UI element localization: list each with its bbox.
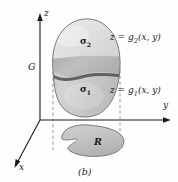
equation-lower-surface: z = g1(x, y) — [110, 86, 161, 97]
axis-label-x: x — [19, 163, 24, 172]
x-axis-line — [17, 120, 40, 163]
region-R-shape — [62, 125, 124, 157]
sigma1-glyph: σ — [80, 84, 87, 94]
solid-G-shape — [40, 10, 140, 117]
region-R-outline — [62, 125, 124, 157]
solid-label-g: G — [28, 62, 36, 72]
surface-label-sigma2: σ2 — [80, 37, 91, 48]
axis-label-y: y — [163, 101, 168, 110]
sigma1-subscript: 1 — [87, 89, 91, 96]
equation-lower-lhs: z = g — [110, 85, 134, 95]
figure-container: z y x G σ2 σ1 z = g2(x, y) z = g1(x, y) … — [0, 0, 178, 182]
sigma2-glyph: σ — [80, 36, 87, 46]
axis-label-z: z — [44, 9, 49, 18]
equation-lower-rhs: (x, y) — [138, 85, 161, 95]
equation-upper-lhs: z = g — [110, 32, 134, 42]
surface-label-sigma1: σ1 — [80, 85, 91, 96]
y-axis-arrowhead — [163, 117, 171, 123]
region-label-r: R — [94, 137, 102, 147]
equation-upper-surface: z = g2(x, y) — [110, 33, 161, 44]
z-axis-arrowhead — [37, 13, 43, 21]
equation-upper-rhs: (x, y) — [138, 32, 161, 42]
figure-caption: (b) — [78, 166, 92, 177]
sigma2-subscript: 2 — [87, 41, 91, 48]
